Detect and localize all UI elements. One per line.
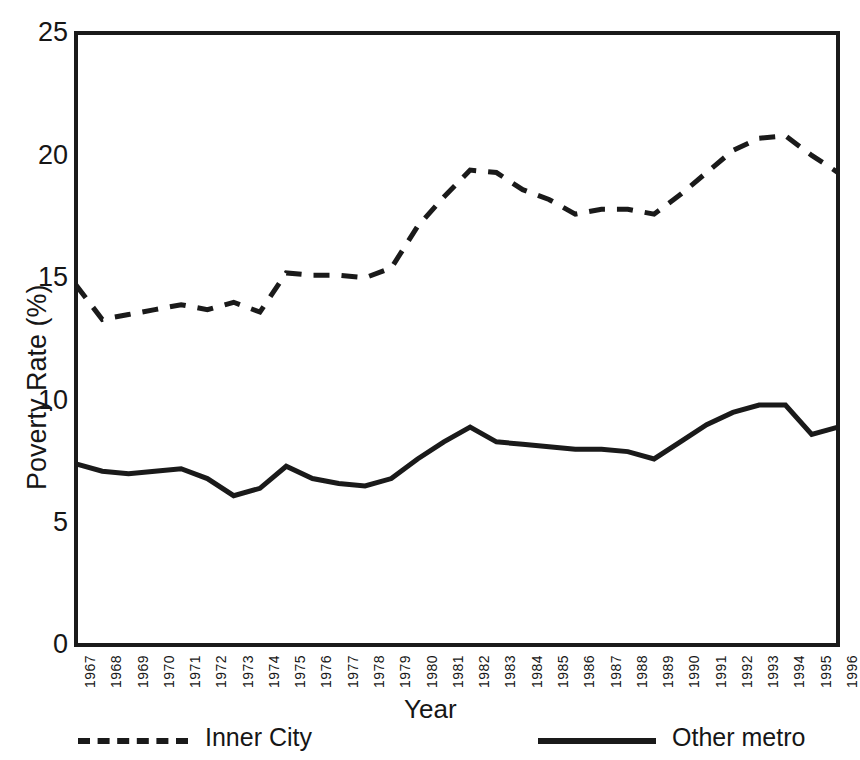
x-tick-label-1972: 1972: [213, 655, 229, 688]
legend-label-other-metro: Other metro: [672, 723, 805, 752]
x-tick-label-1975: 1975: [292, 655, 308, 688]
x-tick-label-1970: 1970: [161, 655, 177, 688]
x-axis-title: Year: [404, 694, 457, 725]
legend-swatch-inner-city: [78, 738, 188, 744]
x-tick-label-1973: 1973: [240, 655, 256, 688]
x-tick-label-1978: 1978: [371, 655, 387, 688]
x-tick-label-1986: 1986: [581, 655, 597, 688]
x-tick-label-1987: 1987: [608, 655, 624, 688]
series-inner-city: [76, 136, 838, 320]
x-tick-label-1976: 1976: [318, 655, 334, 688]
x-tick-label-1996: 1996: [844, 655, 860, 688]
x-tick-label-1981: 1981: [450, 655, 466, 688]
x-tick-label-1974: 1974: [266, 655, 282, 688]
x-tick-label-1984: 1984: [529, 655, 545, 688]
legend-label-inner-city: Inner City: [205, 723, 312, 752]
x-tick-label-1979: 1979: [397, 655, 413, 688]
x-tick-label-1983: 1983: [502, 655, 518, 688]
x-tick-label-1982: 1982: [476, 655, 492, 688]
x-tick-label-1989: 1989: [660, 655, 676, 688]
x-tick-label-1992: 1992: [739, 655, 755, 688]
x-tick-label-1967: 1967: [82, 655, 98, 688]
x-tick-label-1985: 1985: [555, 655, 571, 688]
x-tick-label-1993: 1993: [765, 655, 781, 688]
x-tick-label-1971: 1971: [187, 655, 203, 688]
x-tick-label-1991: 1991: [713, 655, 729, 688]
x-tick-label-1980: 1980: [424, 655, 440, 688]
plot-frame: [76, 33, 838, 645]
series-other-metro: [76, 405, 838, 496]
x-tick-label-1977: 1977: [345, 655, 361, 688]
x-tick-label-1968: 1968: [108, 655, 124, 688]
x-tick-label-1990: 1990: [686, 655, 702, 688]
x-tick-label-1969: 1969: [135, 655, 151, 688]
legend-swatch-other-metro: [538, 738, 656, 744]
x-tick-label-1994: 1994: [791, 655, 807, 688]
x-tick-label-1988: 1988: [634, 655, 650, 688]
x-tick-label-1995: 1995: [818, 655, 834, 688]
